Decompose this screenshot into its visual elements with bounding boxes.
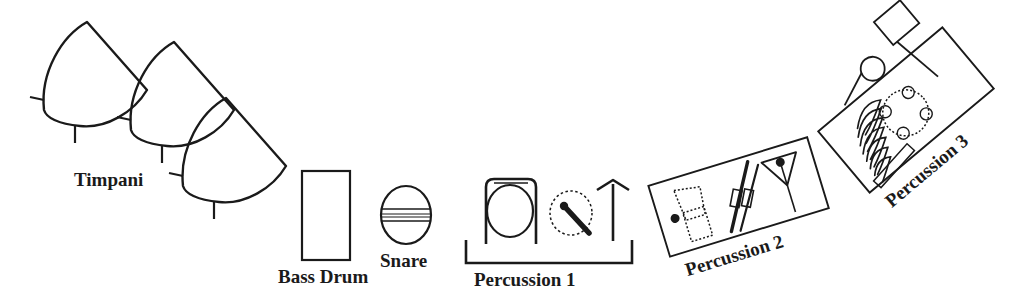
timpani-leg-left-1 — [30, 97, 44, 100]
snare-wires — [381, 209, 431, 221]
cowbell-beater-dot — [669, 213, 680, 224]
gong-in-frame[interactable] — [486, 179, 536, 244]
clave-stick-1 — [713, 162, 766, 232]
tambourine-jingle-2 — [900, 84, 917, 101]
timpani-label: Timpani — [74, 169, 143, 190]
snare-label: Snare — [380, 250, 427, 271]
timpani-group[interactable]: Timpani — [30, 22, 286, 219]
claves-sticks[interactable] — [713, 159, 775, 233]
diagram-canvas: Timpani Bass Drum Snare — [0, 0, 1033, 301]
percussion-2-group[interactable]: Percussion 2 — [648, 137, 837, 283]
percussion-3-table[interactable] — [818, 27, 994, 192]
snare-group[interactable]: Snare — [380, 186, 431, 271]
tambourine[interactable] — [873, 80, 938, 145]
gong-frame — [486, 179, 536, 244]
cymbal-mallet-head — [560, 202, 568, 210]
bass-drum-group[interactable]: Bass Drum — [278, 171, 368, 287]
woodblock[interactable] — [874, 0, 953, 85]
tambourine-jingle-3 — [895, 125, 912, 142]
timpani-bowl-2 — [131, 42, 234, 146]
triangle-stand-post — [780, 162, 795, 212]
cymbal-stand[interactable] — [597, 180, 629, 241]
timpani-bowl-3 — [183, 98, 286, 202]
timpani-leg-left-3 — [169, 173, 183, 176]
percussion-1-group[interactable]: Percussion 1 — [466, 179, 632, 290]
bass-drum-rectangle[interactable] — [302, 171, 350, 260]
percussion-1-label: Percussion 1 — [474, 269, 576, 290]
percussion-seating-chart: Timpani Bass Drum Snare — [0, 0, 1033, 301]
tambourine-frame — [873, 80, 938, 145]
cowbell-body — [674, 183, 708, 221]
suspended-cymbal-with-mallet[interactable] — [550, 191, 592, 235]
timpani-drum-3[interactable] — [169, 98, 286, 219]
gong-disc — [487, 185, 533, 237]
snare-drum-circle[interactable] — [381, 186, 431, 244]
cowbell-on-table[interactable] — [663, 183, 715, 246]
percussion-1-bracket — [466, 240, 632, 263]
timpani-leg-left-2 — [117, 117, 131, 120]
timpani-drum-2[interactable] — [117, 42, 234, 163]
woodblock-body — [874, 0, 919, 45]
cowbell-base-block — [683, 206, 713, 241]
tambourine-jingle-4 — [918, 105, 935, 122]
suspended-triangle[interactable] — [762, 152, 813, 217]
cymbal-mallet-shaft — [565, 207, 589, 233]
percussion-3-label: Percussion 3 — [881, 130, 972, 211]
small-cymbal-disc — [856, 52, 890, 86]
bass-drum-label: Bass Drum — [278, 266, 368, 287]
